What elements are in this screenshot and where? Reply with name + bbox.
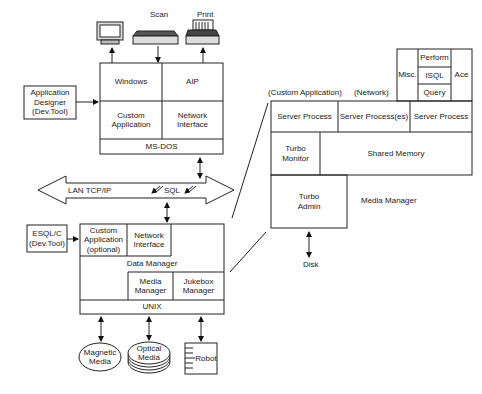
lan-label: LAN TCP/IP: [68, 186, 111, 196]
printer-icon: [186, 20, 219, 44]
network-header: (Network): [354, 88, 389, 98]
server-process-cell: Server Process: [271, 101, 338, 132]
isql-cell: ISQL: [418, 67, 451, 84]
network-interface-cell: Network Interface: [162, 101, 223, 139]
application-designer-box: Application Designer (Dev.Tool): [24, 86, 76, 119]
server-network-interface-cell: Network Interface: [127, 224, 171, 256]
shared-memory-cell: Shared Memory: [320, 132, 472, 175]
media-manager-label: Media Manager: [361, 196, 417, 206]
scan-label: Scan: [150, 10, 168, 20]
aip-cell: AIP: [162, 63, 223, 101]
jukebox-manager-cell: Jukebox Manager: [173, 272, 224, 300]
unix-cell: UNIX: [80, 300, 224, 314]
turbo-admin-cell: Turbo Admin: [271, 175, 347, 228]
robot-label: Robot: [195, 343, 217, 374]
server-processes-cell: Server Process(es): [338, 101, 410, 132]
query-cell: Query: [418, 84, 451, 101]
ace-cell: Ace: [451, 49, 472, 101]
turbo-monitor-cell: Turbo Monitor: [271, 132, 320, 175]
server-process-cell-2: Server Process: [410, 101, 472, 132]
print-label: Print: [197, 10, 213, 20]
ms-dos-cell: MS-DOS: [100, 139, 223, 154]
scanner-icon: [133, 31, 178, 44]
monitor-icon: [97, 22, 123, 44]
perform-cell: Perform: [418, 49, 451, 67]
custom-application-header: (Custom Application): [268, 88, 342, 98]
custom-application-optional-cell: Custom Application (optional): [80, 224, 127, 256]
optical-media: Optical Media: [128, 342, 170, 364]
magnetic-media: Magnetic Media: [79, 343, 121, 371]
media-manager-cell: Media Manager: [128, 272, 173, 300]
data-manager-label: Data Manager: [80, 256, 224, 272]
misc-cell: Misc.: [397, 49, 418, 101]
disk-label: Disk: [303, 260, 319, 270]
custom-application-cell: Custom Application: [100, 101, 162, 139]
esqlc-box: ESQL/C (Dev.Tool): [27, 225, 67, 252]
sql-label: SQL: [164, 186, 180, 196]
windows-cell: Windows: [100, 63, 162, 101]
